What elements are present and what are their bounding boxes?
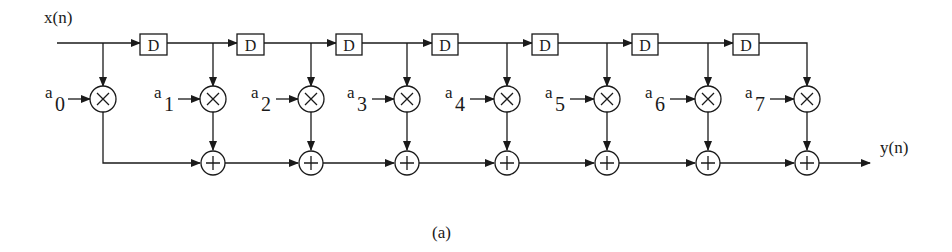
delay-label: D	[539, 37, 551, 54]
coefficient-base: a	[745, 83, 753, 103]
coefficient-index: 5	[555, 93, 565, 116]
fir-filter-diagram: D D D D D D D	[0, 0, 952, 252]
multiplier-7	[794, 86, 820, 112]
coefficient-index: 2	[261, 93, 271, 116]
coefficient-index: 6	[655, 93, 665, 116]
coefficient-index: 1	[164, 93, 174, 116]
adder-2	[299, 151, 323, 175]
multiplier-1	[200, 86, 226, 112]
adder-7	[795, 151, 819, 175]
delay-label: D	[639, 37, 651, 54]
coefficient-base: a	[251, 83, 259, 103]
delay-label: D	[245, 37, 257, 54]
multiplier-3	[394, 86, 420, 112]
coefficient-index: 4	[455, 93, 465, 116]
delay-label: D	[343, 37, 355, 54]
delay-label: D	[740, 37, 752, 54]
multiplier-5	[594, 86, 620, 112]
adder-3	[395, 151, 419, 175]
coefficient-base: a	[45, 83, 53, 103]
delay-label: D	[148, 37, 160, 54]
multiplier-2	[298, 86, 324, 112]
multiplier-6	[695, 86, 721, 112]
coefficient-base: a	[154, 83, 162, 103]
adder-5	[595, 151, 619, 175]
coefficient-base: a	[347, 83, 355, 103]
coefficient-base: a	[445, 83, 453, 103]
adder-6	[696, 151, 720, 175]
coefficient-index: 3	[357, 93, 367, 116]
delay-label: D	[439, 37, 451, 54]
coefficient-base: a	[645, 83, 653, 103]
input-label: x(n)	[44, 8, 72, 28]
adder-1	[201, 151, 225, 175]
multiplier-4	[494, 86, 520, 112]
figure-caption: (a)	[432, 223, 451, 243]
coefficient-base: a	[545, 83, 553, 103]
output-label: y(n)	[880, 138, 908, 158]
coefficient-index: 7	[755, 93, 765, 116]
adder-4	[495, 151, 519, 175]
multiplier-0	[90, 86, 116, 112]
coefficient-index: 0	[55, 93, 65, 116]
